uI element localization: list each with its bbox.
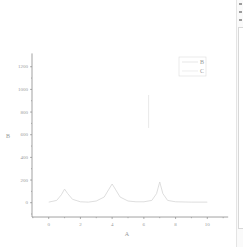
legend: B C <box>179 57 206 76</box>
legend-label-c: C <box>200 68 204 74</box>
y-tick-label: 0 <box>26 200 29 205</box>
panel-text-fragment <box>239 3 242 5</box>
panel-text-fragment <box>239 11 242 13</box>
y-tick-label: 1200 <box>18 64 29 69</box>
panel-text-fragment <box>239 19 242 21</box>
legend-label-b: B <box>200 59 204 65</box>
line-chart: 020040060080010001200 0246810 B A B C <box>0 0 230 247</box>
x-axis-title: A <box>125 231 130 237</box>
x-tick-label: 2 <box>79 222 82 227</box>
x-tick-label: 4 <box>111 222 114 227</box>
y-axis-title: B <box>6 133 10 139</box>
y-tick-label: 800 <box>21 110 29 115</box>
series-b-line <box>49 182 208 202</box>
x-tick-label: 0 <box>47 222 50 227</box>
x-tick-label: 8 <box>174 222 177 227</box>
side-panel[interactable] <box>236 0 243 247</box>
y-tick-label: 400 <box>21 155 29 160</box>
y-axis: 020040060080010001200 <box>18 53 32 217</box>
panel-list[interactable] <box>238 27 243 229</box>
x-tick-label: 6 <box>143 222 146 227</box>
series-lines <box>49 95 208 202</box>
y-tick-label: 200 <box>21 178 29 183</box>
y-tick-label: 1000 <box>18 87 29 92</box>
x-tick-label: 10 <box>205 222 211 227</box>
y-tick-label: 600 <box>21 132 29 137</box>
x-axis: 0246810 <box>32 217 228 227</box>
